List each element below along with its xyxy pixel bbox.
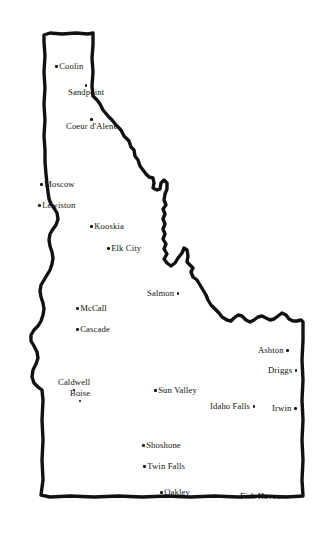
city-dot-icon	[253, 405, 256, 408]
city-marker: Shoshone	[142, 441, 181, 450]
city-label: Boise	[70, 389, 90, 398]
city-dot-icon	[76, 307, 79, 310]
idaho-map: CoolinSandpointCoeur d'AleneMoscowLewist…	[0, 0, 326, 539]
city-marker: McCall	[76, 304, 107, 313]
city-marker: Coeur d'Alene	[66, 118, 117, 131]
city-label: Sun Valley	[158, 386, 197, 395]
city-label: Caldwell	[58, 378, 90, 387]
city-marker: Cascade	[76, 325, 110, 334]
city-dot-icon	[286, 349, 289, 352]
city-label: McCall	[80, 304, 107, 313]
city-label: Salmon	[147, 289, 174, 298]
city-label: Ashton	[258, 346, 284, 355]
city-label: Fish Haven	[240, 492, 281, 501]
city-label: Moscow	[44, 180, 75, 189]
city-marker: Kooskia	[90, 222, 124, 231]
city-label: Coeur d'Alene	[66, 122, 117, 131]
city-dot-icon	[90, 225, 93, 228]
city-label: Shoshone	[146, 441, 181, 450]
city-label: Kooskia	[94, 222, 124, 231]
city-marker: Coolin	[55, 62, 84, 71]
city-dot-icon	[79, 400, 82, 403]
city-dot-icon	[177, 292, 180, 295]
city-dot-icon	[55, 65, 58, 68]
city-label: Twin Falls	[147, 462, 185, 471]
city-label: Idaho Falls	[210, 402, 250, 411]
city-marker: Salmon	[147, 289, 179, 298]
city-marker: Boise	[70, 389, 90, 402]
city-dot-icon	[154, 389, 157, 392]
city-dot-icon	[107, 247, 110, 250]
city-label: Oakley	[164, 488, 190, 497]
city-dot-icon	[283, 495, 286, 498]
city-dot-icon	[294, 407, 297, 410]
city-label: Elk City	[111, 244, 141, 253]
state-border-path	[31, 33, 303, 497]
city-marker: Ashton	[258, 346, 289, 355]
city-dot-icon	[142, 444, 145, 447]
city-marker: Moscow	[40, 180, 75, 189]
city-dot-icon	[143, 465, 146, 468]
city-marker: Driggs	[268, 366, 297, 375]
city-dot-icon	[160, 491, 163, 494]
city-marker: Fish Haven	[240, 492, 286, 501]
city-marker: Sun Valley	[154, 386, 197, 395]
city-marker: Elk City	[107, 244, 141, 253]
city-label: Lewiston	[42, 201, 75, 210]
city-dot-icon	[76, 328, 79, 331]
city-dot-icon	[295, 369, 298, 372]
city-label: Irwin	[272, 404, 291, 413]
city-label: Driggs	[268, 366, 292, 375]
city-marker: Oakley	[160, 488, 190, 497]
city-marker: Sandpoint	[68, 84, 104, 97]
idaho-state-outline	[0, 0, 326, 539]
city-dot-icon	[40, 183, 43, 186]
city-label: Sandpoint	[68, 88, 104, 97]
city-label: Coolin	[59, 62, 83, 71]
city-marker: Lewiston	[38, 201, 75, 210]
city-marker: Irwin	[272, 404, 297, 413]
city-dot-icon	[38, 204, 41, 207]
city-label: Cascade	[80, 325, 110, 334]
city-marker: Idaho Falls	[210, 402, 255, 411]
city-marker: Twin Falls	[143, 462, 185, 471]
